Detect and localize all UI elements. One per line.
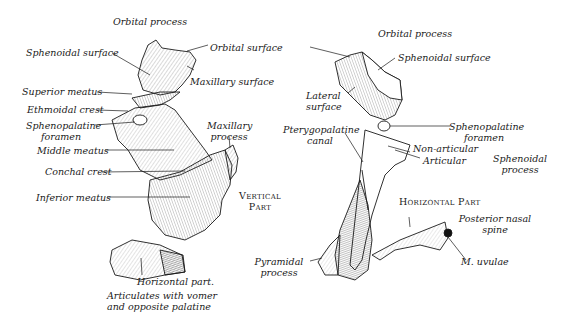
label-line-1: Pterygopalatine [283, 124, 357, 135]
label-line-2: spine [458, 224, 532, 235]
label-line-1: Sphenoidal [492, 153, 548, 164]
label-horizontal-part-left: Horizontal part. [137, 276, 214, 287]
label-line-1: Sphenopalatine [26, 120, 96, 131]
label-line-2: foramen [449, 132, 519, 143]
label-orbital-process-left: Orbital process [113, 16, 187, 27]
label-line-1: Articulates with vomer [107, 290, 217, 301]
label-line-1: Vertical [234, 190, 286, 201]
label-line-1: Maxillary [207, 120, 251, 131]
label-sphenopalatine-foramen-left: Sphenopalatine foramen [26, 120, 96, 142]
label-posterior-nasal-spine: Posterior nasal spine [458, 213, 532, 235]
label-articular: Articular [423, 155, 466, 166]
label-line-1: Sphenopalatine [449, 121, 519, 132]
label-line-1: Posterior nasal [458, 213, 532, 224]
label-vertical-part: Vertical Part [234, 190, 286, 212]
label-sphenoidal-process: Sphenoidal process [492, 153, 548, 175]
label-lateral-surface: Lateral surface [306, 90, 342, 112]
label-line-1: Lateral [306, 90, 342, 101]
label-pterygopalatine-canal: Pterygopalatine canal [283, 124, 357, 146]
label-conchal-crest: Conchal crest [45, 166, 111, 177]
palatine-bone-figure: Orbital process Sphenoidal surface Orbit… [0, 0, 561, 321]
label-orbital-process-right: Orbital process [378, 28, 452, 39]
label-ethmoidal-crest: Ethmoidal crest [27, 104, 104, 115]
label-sphenoidal-surface-right: Sphenoidal surface [398, 52, 491, 63]
label-sphenopalatine-foramen-right: Sphenopalatine foramen [449, 121, 519, 143]
right-bone-view [318, 52, 452, 280]
label-line-2: foramen [26, 131, 96, 142]
label-inferior-meatus: Inferior meatus [36, 192, 111, 203]
label-pyramidal-process: Pyramidal process [250, 256, 308, 278]
label-superior-meatus: Superior meatus [22, 86, 102, 97]
label-non-articular: Non-articular [413, 143, 478, 154]
label-line-1: Pyramidal [250, 256, 308, 267]
label-line-2: Part [234, 201, 286, 212]
label-line-2: process [207, 131, 251, 142]
label-horizontal-part-right: Horizontal Part [399, 196, 481, 207]
label-m-uvulae: M. uvulae [461, 256, 509, 267]
label-sphenoidal-surface-left: Sphenoidal surface [26, 47, 119, 58]
label-orbital-surface: Orbital surface [210, 42, 283, 53]
label-maxillary-surface: Maxillary surface [190, 76, 274, 87]
label-articulates: Articulates with vomer and opposite pala… [107, 290, 217, 312]
label-line-2: process [250, 267, 308, 278]
label-maxillary-process: Maxillary process [207, 120, 251, 142]
label-line-2: canal [283, 135, 357, 146]
label-line-2: and opposite palatine [107, 301, 217, 312]
label-line-2: process [492, 164, 548, 175]
label-line-2: surface [306, 101, 342, 112]
label-middle-meatus: Middle meatus [37, 145, 109, 156]
